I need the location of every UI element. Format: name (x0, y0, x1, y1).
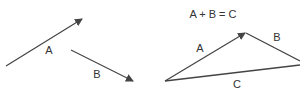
left-label-b: B (93, 68, 100, 80)
right-vector-a (165, 33, 245, 81)
right-label-b: B (273, 31, 280, 43)
right-label-a: A (196, 42, 203, 54)
left-label-a: A (45, 44, 52, 56)
equation-title: A + B = C (189, 8, 236, 20)
left-vector-b (71, 50, 133, 81)
right-label-c: C (233, 78, 241, 90)
left-vector-a (6, 19, 82, 66)
